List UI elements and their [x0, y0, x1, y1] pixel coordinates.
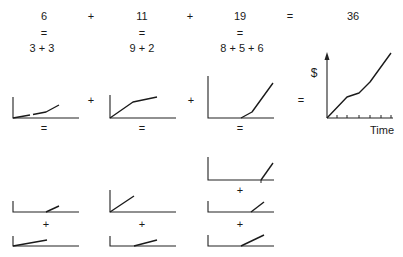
component-2-part-b-chart — [110, 236, 176, 246]
total-chart — [325, 52, 394, 118]
component-2-part-a-chart — [110, 190, 176, 212]
component-1-chart — [13, 97, 79, 118]
component-1-part-a-chart — [13, 201, 79, 212]
component-2-chart — [110, 95, 176, 118]
arrow-up-icon — [325, 52, 330, 60]
component-3-chart — [208, 76, 274, 118]
component-3-part-a-chart — [208, 157, 274, 183]
component-3-part-b-chart — [208, 201, 274, 212]
component-3-part-c-chart — [208, 235, 274, 246]
component-1-part-b-chart — [13, 236, 79, 246]
decomposition-diagram — [0, 0, 403, 257]
